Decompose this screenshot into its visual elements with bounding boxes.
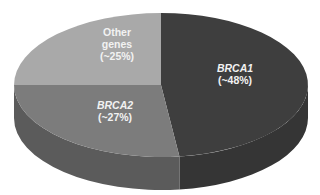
label-other-line1: Other: [82, 26, 152, 38]
label-brca1-pct: (~48%): [200, 74, 270, 86]
label-brca2: BRCA2 (~27%): [80, 99, 150, 123]
label-brca2-pct: (~27%): [80, 111, 150, 123]
label-other-genes: Other genes (~25%): [82, 26, 152, 62]
pie-chart: [0, 0, 320, 195]
label-brca1-name: BRCA1: [200, 62, 270, 74]
label-other-pct: (~25%): [82, 50, 152, 62]
label-brca1: BRCA1 (~48%): [200, 62, 270, 86]
label-brca2-name: BRCA2: [80, 99, 150, 111]
label-other-line1b: genes: [82, 38, 152, 50]
